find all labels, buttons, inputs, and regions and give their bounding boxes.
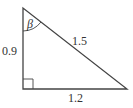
vertical-side-label: 0.9 [2, 44, 17, 58]
hypotenuse-label: 1.5 [72, 34, 87, 48]
horizontal-side-label: 1.2 [68, 91, 83, 105]
right-angle-marker [23, 79, 33, 89]
angle-label-beta: β [26, 17, 33, 31]
right-triangle-diagram: β 0.9 1.5 1.2 [0, 0, 133, 108]
triangle-shape [23, 8, 127, 89]
